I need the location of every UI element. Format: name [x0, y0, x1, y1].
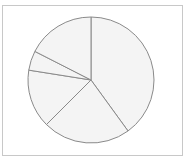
pie-chart [0, 0, 188, 165]
